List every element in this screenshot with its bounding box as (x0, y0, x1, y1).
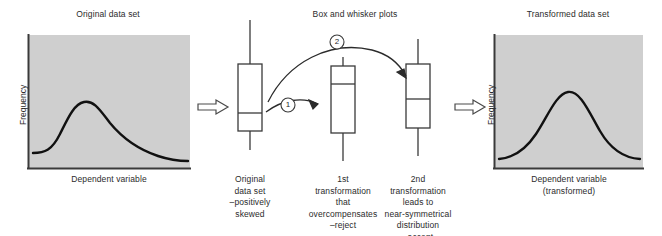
right-panel-plot (0, 0, 662, 236)
right-plot-area (494, 35, 643, 168)
right-panel-xlabel: Dependent variable (transformed) (494, 174, 644, 197)
figure-root: Original data set Frequency Dependent va… (0, 0, 662, 236)
right-panel-ylabel: Frequency (486, 85, 496, 125)
